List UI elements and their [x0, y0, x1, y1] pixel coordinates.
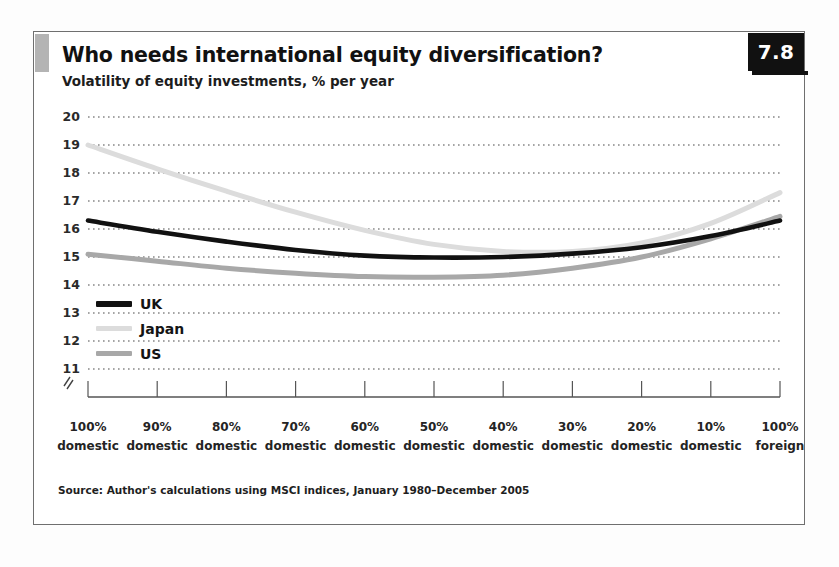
x-axis-label-1: 90%domestic — [121, 418, 193, 456]
x-axis-label-sub: domestic — [52, 437, 124, 456]
x-axis-label-0: 100%domestic — [52, 418, 124, 456]
y-axis-label-14: 14 — [52, 277, 80, 292]
x-axis-label-7: 30%domestic — [536, 418, 608, 456]
legend-label: UK — [140, 296, 162, 312]
badge-shadow — [752, 71, 808, 75]
x-axis-label-2: 80%domestic — [190, 418, 262, 456]
y-axis-label-17: 17 — [52, 193, 80, 208]
x-axis-label-4: 60%domestic — [329, 418, 401, 456]
x-axis-label-sub: domestic — [675, 437, 747, 456]
y-axis-label-12: 12 — [52, 333, 80, 348]
x-axis-label-3: 70%domestic — [260, 418, 332, 456]
legend-swatch-japan — [96, 326, 132, 331]
source-note: Source: Author's calculations using MSCI… — [58, 484, 529, 496]
legend-item-japan[interactable]: Japan — [96, 316, 184, 341]
x-axis-label-sub: domestic — [536, 437, 608, 456]
x-axis-label-sub: domestic — [190, 437, 262, 456]
page-title: Who needs international equity diversifi… — [62, 43, 603, 67]
y-axis-label-20: 20 — [52, 109, 80, 124]
x-axis-label-pct: 100% — [52, 418, 124, 437]
y-axis-label-19: 19 — [52, 137, 80, 152]
y-axis-label-15: 15 — [52, 249, 80, 264]
x-axis-label-9: 10%domestic — [675, 418, 747, 456]
legend-swatch-uk — [96, 301, 132, 307]
x-axis-label-sub: domestic — [260, 437, 332, 456]
x-axis-label-sub: domestic — [467, 437, 539, 456]
x-axis-label-pct: 20% — [606, 418, 678, 437]
x-axis-label-pct: 10% — [675, 418, 747, 437]
x-axis-label-5: 50%domestic — [398, 418, 470, 456]
x-axis-label-sub: domestic — [398, 437, 470, 456]
x-axis-label-6: 40%domestic — [467, 418, 539, 456]
y-axis-label-16: 16 — [52, 221, 80, 236]
x-axis-label-8: 20%domestic — [606, 418, 678, 456]
x-axis-label-pct: 70% — [260, 418, 332, 437]
x-axis-label-pct: 90% — [121, 418, 193, 437]
x-axis-label-pct: 100% — [744, 418, 816, 437]
chart-legend: UKJapanUS — [96, 291, 184, 366]
x-axis-label-pct: 40% — [467, 418, 539, 437]
x-axis-label-10: 100%foreign — [744, 418, 816, 456]
legend-item-uk[interactable]: UK — [96, 291, 184, 316]
x-axis-label-sub: foreign — [744, 437, 816, 456]
exhibit-number-badge: 7.8 — [748, 33, 804, 71]
legend-item-us[interactable]: US — [96, 341, 184, 366]
page-subtitle: Volatility of equity investments, % per … — [62, 73, 394, 89]
x-axis-label-sub: domestic — [606, 437, 678, 456]
y-axis-label-18: 18 — [52, 165, 80, 180]
x-axis-label-pct: 30% — [536, 418, 608, 437]
legend-label: US — [140, 346, 161, 362]
x-axis-label-sub: domestic — [329, 437, 401, 456]
legend-label: Japan — [140, 321, 184, 337]
x-axis-label-pct: 80% — [190, 418, 262, 437]
y-axis-label-13: 13 — [52, 305, 80, 320]
exhibit-page: Who needs international equity diversifi… — [0, 0, 839, 567]
y-axis-label-11: 11 — [52, 361, 80, 376]
legend-swatch-us — [96, 351, 132, 356]
x-axis-label-pct: 60% — [329, 418, 401, 437]
title-accent-bar — [35, 34, 49, 72]
x-axis-label-pct: 50% — [398, 418, 470, 437]
x-axis-label-sub: domestic — [121, 437, 193, 456]
